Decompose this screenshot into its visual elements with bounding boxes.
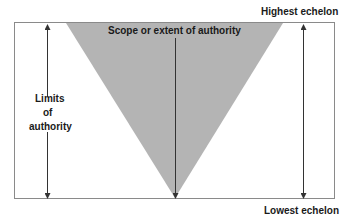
center-label: Scope or extent of authority (108, 25, 241, 36)
limits-label-1: Limits (35, 93, 64, 104)
limits-label-2: of (43, 107, 52, 118)
bottom-label: Lowest echelon (264, 205, 339, 216)
limits-label-3: authority (29, 121, 72, 132)
scope-triangle (66, 23, 283, 198)
top-label: Highest echelon (261, 6, 338, 17)
